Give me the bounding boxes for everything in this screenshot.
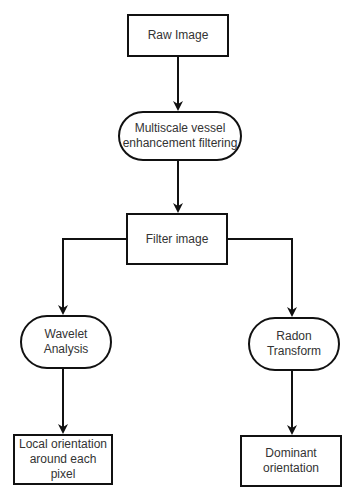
node-filter-image: Filter image [126, 213, 228, 265]
node-local-orientation-label: Local orientation around each pixel [15, 437, 111, 482]
node-wavelet-analysis: Wavelet Analysis [20, 315, 112, 369]
edge-filter-to-wavelet [63, 239, 126, 313]
node-dominant-orientation: Dominant orientation [240, 435, 342, 487]
node-multiscale-vessel-enhancement: Multiscale vessel enhancement filtering [118, 111, 242, 161]
node-radon-transform-label: Radon Transform [265, 329, 323, 359]
node-raw-image-label: Raw Image [146, 28, 211, 43]
node-multiscale-vessel-enhancement-label: Multiscale vessel enhancement filtering [121, 121, 240, 151]
node-dominant-orientation-label: Dominant orientation [261, 446, 321, 476]
node-wavelet-analysis-label: Wavelet Analysis [42, 327, 91, 357]
node-raw-image: Raw Image [127, 14, 229, 57]
node-radon-transform: Radon Transform [248, 317, 340, 371]
edge-filter-to-radon [228, 239, 292, 315]
node-filter-image-label: Filter image [144, 232, 211, 247]
node-local-orientation: Local orientation around each pixel [13, 434, 113, 485]
